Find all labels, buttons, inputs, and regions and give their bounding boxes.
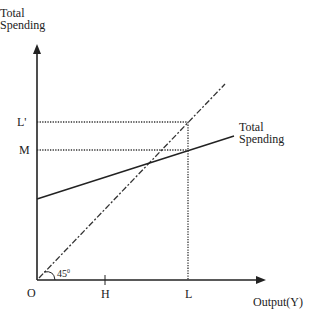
forty-five-degree-line [39, 84, 225, 278]
x-axis-arrow-icon [256, 276, 266, 284]
y-axis-arrow-icon [33, 44, 41, 54]
x-tick-l: L [185, 288, 192, 300]
angle-label: 450 [57, 265, 70, 280]
origin-label: O [27, 287, 36, 299]
angle-arc [44, 272, 55, 280]
line-label-line2: Spending [239, 133, 284, 145]
x-tick-h: H [101, 288, 110, 300]
y-tick-m: M [19, 144, 30, 156]
total-spending-line [37, 136, 234, 199]
angle-value: 45 [57, 268, 67, 279]
angle-degree: 0 [67, 268, 70, 274]
x-axis-label: Output(Y) [253, 296, 303, 308]
y-axis-label-line2: Spending [0, 19, 45, 31]
diagram-canvas [0, 0, 317, 318]
y-tick-l-prime: L' [17, 116, 27, 128]
